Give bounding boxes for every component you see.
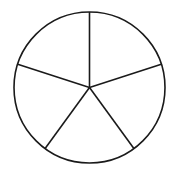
pie-diagram (0, 0, 179, 170)
